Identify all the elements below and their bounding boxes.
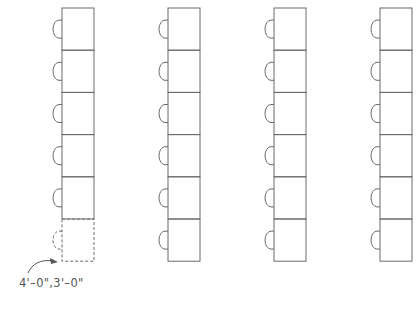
column-3 <box>265 8 306 261</box>
chair-icon <box>159 20 168 38</box>
table-outline <box>168 50 200 92</box>
table-outline <box>274 92 306 134</box>
table-outline <box>380 50 412 92</box>
chair-icon <box>53 231 62 249</box>
column-4 <box>371 8 412 261</box>
chair-icon <box>53 62 62 80</box>
chair-icon <box>159 105 168 123</box>
chair-icon <box>53 105 62 123</box>
chair-icon <box>265 231 274 249</box>
chair-icon <box>265 147 274 165</box>
table-outline <box>274 50 306 92</box>
table-outline <box>62 177 94 219</box>
table-outline <box>380 219 412 261</box>
chair-icon <box>371 147 380 165</box>
arrow-head-icon <box>50 258 58 264</box>
chair-icon <box>53 147 62 165</box>
chair-icon <box>53 189 62 207</box>
table-outline <box>168 92 200 134</box>
table-outline <box>380 8 412 50</box>
table-outline <box>62 92 94 134</box>
table-outline <box>380 92 412 134</box>
seating-layout-drawing <box>0 0 417 309</box>
chair-icon <box>159 62 168 80</box>
table-outline <box>274 8 306 50</box>
table-outline <box>62 135 94 177</box>
table-outline <box>274 219 306 261</box>
chair-icon <box>159 147 168 165</box>
table-outline <box>168 135 200 177</box>
chair-icon <box>265 20 274 38</box>
chair-icon <box>159 231 168 249</box>
column-1 <box>53 8 94 261</box>
chair-icon <box>159 189 168 207</box>
table-outline <box>62 50 94 92</box>
chair-icon <box>371 189 380 207</box>
table-outline <box>168 8 200 50</box>
chair-icon <box>265 189 274 207</box>
chair-icon <box>371 231 380 249</box>
chair-icon <box>371 62 380 80</box>
table-outline-dashed <box>62 219 94 261</box>
chair-icon <box>53 20 62 38</box>
table-outline <box>380 135 412 177</box>
chair-icon <box>265 62 274 80</box>
table-outline <box>62 8 94 50</box>
annotation-leader-arrow <box>28 261 54 273</box>
table-outline <box>274 135 306 177</box>
table-outline <box>168 219 200 261</box>
chair-icon <box>371 105 380 123</box>
column-2 <box>159 8 200 261</box>
chair-icon <box>265 105 274 123</box>
table-outline <box>168 177 200 219</box>
table-outline <box>274 177 306 219</box>
table-outline <box>380 177 412 219</box>
dimension-label: 4'–0",3'–0" <box>19 276 84 290</box>
chair-icon <box>371 20 380 38</box>
